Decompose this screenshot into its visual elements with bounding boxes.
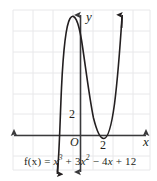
cubic-function-graph: y x O 2 2 f(x) = x3 + 3x2 − 4x + 12 <box>0 0 157 181</box>
grid-lines <box>13 10 150 170</box>
graph-canvas <box>0 0 157 181</box>
